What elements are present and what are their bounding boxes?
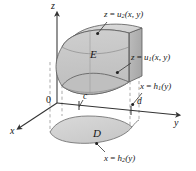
leader-h2 (97, 144, 105, 152)
figure-container: z y x 0 c d E D z = u2(x, y) z = u1(x, y… (0, 0, 196, 171)
z-axis-label: z (51, 1, 55, 11)
x-axis-label: x (10, 126, 14, 136)
side-front-eq: = (144, 81, 154, 91)
surface-top-args: (x, y) (125, 9, 143, 19)
leader-dot-h2 (95, 142, 98, 145)
tick-label-c: c (83, 92, 87, 102)
surface-label-top: z = u2(x, y) (104, 10, 143, 19)
y-axis (57, 103, 178, 115)
x-axis (19, 103, 57, 128)
tick-label-d: d (137, 97, 142, 107)
plane-region-label-D: D (93, 128, 101, 139)
region-D-right-edge (132, 120, 139, 127)
surface-top-eq: = (108, 9, 118, 19)
surface-label-side-back: x = h2(y) (104, 154, 135, 163)
surface-bottom-eq: = (135, 52, 145, 62)
leader-dot-u1 (116, 71, 119, 74)
origin-label: 0 (46, 95, 51, 105)
surface-bottom-args: (x, y) (152, 52, 170, 62)
leader-dot-h1 (131, 103, 134, 106)
side-back-args: (y) (125, 153, 135, 163)
solid-region-E (56, 24, 142, 95)
y-axis-label: y (174, 118, 178, 128)
leader-dot-u2 (96, 32, 99, 35)
surface-label-bottom: z = u1(x, y) (131, 53, 170, 62)
region-D-shape (50, 116, 132, 143)
side-back-eq: = (108, 153, 118, 163)
surface-label-side-front: x = h1(y) (140, 82, 171, 91)
side-front-args: (y) (161, 81, 171, 91)
solid-region-label-E: E (90, 49, 97, 60)
